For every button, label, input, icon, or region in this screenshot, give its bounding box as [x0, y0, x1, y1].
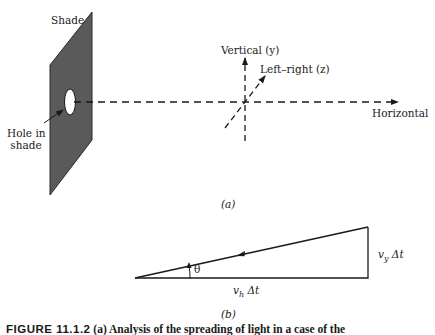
- caption-text: (a) Analysis of the spreading of light i…: [93, 323, 345, 335]
- left-right-axis-label: Left–right (z): [260, 63, 330, 75]
- horizontal-side-tail: Δt: [244, 284, 259, 296]
- diagram-canvas: [0, 0, 435, 335]
- vertical-side-tail: Δt: [388, 248, 403, 260]
- panel-a-label: (a): [221, 198, 235, 210]
- hole-label-line2: shade: [7, 139, 45, 151]
- vertical-side-label: vy Δt: [378, 248, 404, 265]
- figure-caption: FIGURE 11.1.2 (a) Analysis of the spread…: [6, 323, 345, 335]
- angle-theta-label: θ: [194, 263, 200, 275]
- panel-b-label: (b): [221, 308, 236, 320]
- hole-label: Hole in shade: [7, 127, 45, 151]
- hole-in-shade: [65, 89, 76, 115]
- horizontal-side-label: vh Δt: [233, 284, 259, 301]
- figure-number: FIGURE 11.1.2: [6, 323, 90, 335]
- hole-label-line1: Hole in: [7, 127, 45, 139]
- vertical-axis-label: Vertical (y): [221, 44, 279, 56]
- angle-arc-arrowhead: [187, 262, 192, 268]
- hypotenuse-arrow-line: [135, 227, 368, 278]
- hypotenuse-arrowhead: [236, 251, 245, 256]
- shade-label: Shade: [51, 14, 84, 26]
- horizontal-axis-label: Horizontal: [372, 107, 428, 119]
